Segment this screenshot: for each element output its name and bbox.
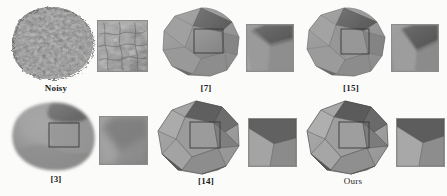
panel-ref14: [14] [152, 98, 297, 194]
ours-closeup-render [397, 119, 444, 166]
ref14-closeup-inset [248, 118, 297, 167]
panel-label-ref14: [14] [180, 176, 232, 187]
noisy-mesh-render [8, 4, 96, 80]
ours-mesh-render [300, 98, 396, 178]
panel-ref15: [15] [300, 4, 440, 96]
panel-label-ref7: [7] [181, 83, 231, 94]
ref3-mesh-render [8, 100, 100, 172]
panel-ref7: [7] [155, 4, 295, 96]
noisy-closeup-render [98, 21, 147, 71]
ours-closeup-inset [396, 118, 445, 167]
ref7-mesh-render [155, 4, 247, 80]
mesh-denoising-comparison-figure: Noisy [0, 0, 447, 196]
panel-label-ref3: [3] [32, 174, 80, 185]
ref14-mesh-render [152, 98, 248, 178]
ref7-closeup-render [247, 25, 293, 71]
ref3-closeup-render [100, 117, 147, 164]
panel-ref3: [3] [8, 100, 148, 194]
panel-ours: Ours [300, 98, 445, 194]
panel-label-ref15: [15] [324, 83, 378, 94]
ref15-closeup-inset [391, 24, 439, 72]
panel-label-ours: Ours [322, 176, 384, 187]
ref15-closeup-render [392, 25, 438, 71]
ref3-closeup-inset [99, 116, 148, 165]
panel-label-noisy: Noisy [26, 83, 86, 94]
ref7-closeup-inset [246, 24, 294, 72]
ref15-mesh-render [300, 4, 392, 80]
panel-noisy: Noisy [8, 4, 148, 96]
ref14-closeup-render [249, 119, 296, 166]
noisy-closeup-inset [97, 20, 148, 72]
